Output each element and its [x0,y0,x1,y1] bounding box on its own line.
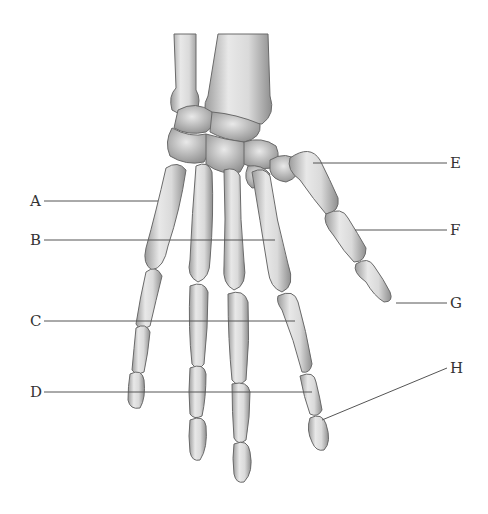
label-g: G [450,296,462,311]
label-f: F [450,223,460,238]
hand-skeleton-diagram: A B C D E F G H [0,0,488,514]
label-e: E [450,156,461,171]
label-b: B [30,233,41,248]
label-h: H [450,361,463,376]
label-c: C [30,314,41,329]
label-d: D [30,385,42,400]
label-a: A [30,194,41,209]
leader-lines [0,0,488,514]
leader-line-h [322,368,447,420]
